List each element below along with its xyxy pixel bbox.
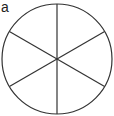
divided-circle	[0, 0, 114, 116]
